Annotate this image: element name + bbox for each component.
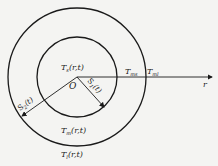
outer-region-label: Tl(r,t) bbox=[61, 150, 83, 160]
axis-label: r bbox=[203, 80, 208, 89]
inner-radius-label: S1(t) bbox=[85, 76, 104, 96]
center-label: O bbox=[69, 81, 77, 91]
inner-region-label: Ts(r,t) bbox=[61, 63, 84, 73]
outer-radius-label: S2(t) bbox=[16, 95, 36, 113]
concentric-circles-diagram: O r Ts(r,t) Tm(r,t) Tl(r,t) Tms Tml S1(t… bbox=[0, 0, 218, 166]
annulus-region-label: Tm(r,t) bbox=[61, 126, 86, 136]
outer-boundary-temp-label: Tml bbox=[147, 67, 159, 77]
inner-boundary-temp-label: Tms bbox=[125, 67, 138, 77]
